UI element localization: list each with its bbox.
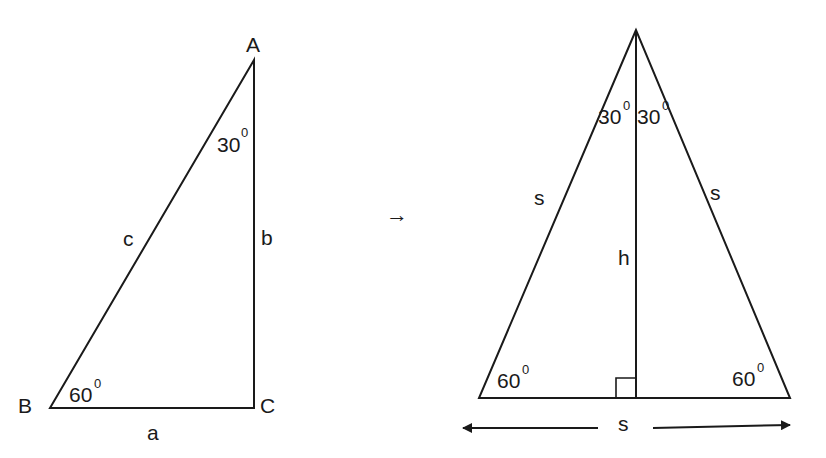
transition-arrow-icon: →	[386, 202, 408, 227]
base-label-s: s	[618, 412, 629, 435]
vertex-label-a: A	[246, 33, 260, 56]
angle-label-apex-left: 30 0	[598, 98, 630, 128]
equilateral-triangle-shape	[479, 30, 790, 398]
vertex-label-b: B	[18, 394, 32, 417]
side-label-s-left: s	[534, 186, 545, 209]
svg-text:30: 30	[598, 105, 621, 128]
angle-label-b: 60 0	[69, 376, 101, 406]
equilateral-triangle: 30 0 30 0 s s h 60 0 60 0 s	[463, 30, 790, 435]
svg-text:60: 60	[732, 367, 755, 390]
degree-mark: 0	[241, 125, 248, 140]
angle-label-base-left: 60 0	[497, 362, 529, 392]
angle-label-apex-right: 30 0	[637, 98, 669, 128]
height-label-h: h	[618, 246, 630, 269]
side-label-a: a	[147, 421, 159, 444]
svg-text:30: 30	[217, 133, 240, 156]
left-triangle-shape	[50, 60, 254, 408]
vertex-label-c: C	[260, 394, 275, 417]
svg-text:60: 60	[497, 369, 520, 392]
svg-text:60: 60	[69, 383, 92, 406]
svg-text:30: 30	[637, 105, 660, 128]
degree-mark: 0	[757, 360, 764, 375]
degree-mark: 0	[522, 362, 529, 377]
side-label-s-right: s	[710, 181, 721, 204]
side-label-b: b	[261, 226, 273, 249]
degree-mark: 0	[94, 376, 101, 391]
left-triangle: A B C c b a 30 0 60 0	[18, 33, 275, 444]
angle-label-a: 30 0	[217, 125, 248, 156]
degree-mark: 0	[623, 98, 630, 113]
degree-mark: 0	[662, 98, 669, 113]
diagram-canvas: A B C c b a 30 0 60 0 → 30 0 30 0 s s h	[0, 0, 826, 458]
base-arrow-right-icon	[653, 425, 790, 428]
angle-label-base-right: 60 0	[732, 360, 764, 390]
side-label-c: c	[123, 227, 134, 250]
right-angle-marker-icon	[616, 378, 636, 398]
